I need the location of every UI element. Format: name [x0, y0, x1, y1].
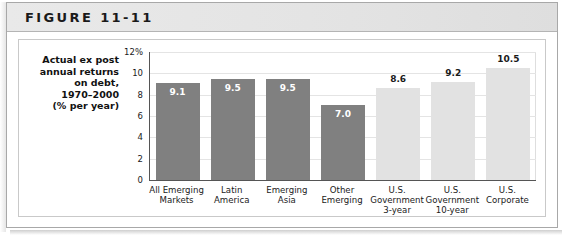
y-tick-10: 10 — [132, 68, 143, 78]
y-axis-tick-labels: 024681012% — [120, 52, 146, 180]
category-label-5: U.S.Government10-year — [421, 185, 484, 216]
bar-value-label-1: 9.5 — [211, 83, 255, 93]
bar-value-label-3: 7.0 — [321, 109, 365, 119]
gridline-12 — [150, 52, 536, 53]
bar-6: 10.5 — [486, 68, 530, 180]
category-label-line: U.S. — [476, 185, 539, 195]
category-label-1: LatinAmerica — [200, 185, 263, 205]
bar-value-label-6: 10.5 — [486, 54, 530, 64]
category-label-line: U.S. — [366, 185, 429, 195]
bar-value-label-4: 8.6 — [376, 74, 420, 84]
bar-3: 7.0 — [321, 105, 365, 180]
figure-header-band: FIGURE 11-11 — [7, 3, 557, 32]
y-tick-6: 6 — [138, 111, 143, 121]
category-label-line: Markets — [145, 195, 208, 205]
bar-value-label-0: 9.1 — [156, 87, 200, 97]
chart-caption: Actual ex post annual returns on debt, 1… — [27, 54, 119, 112]
category-label-line: Other — [310, 185, 373, 195]
y-tick-4: 4 — [138, 132, 143, 142]
category-label-3: OtherEmerging — [310, 185, 373, 205]
y-tick-8: 8 — [138, 90, 143, 100]
bar-value-label-5: 9.2 — [431, 68, 475, 78]
bar-5: 9.2 — [431, 82, 475, 180]
category-label-6: U.S.Corporate — [476, 185, 539, 205]
y-tick-0: 0 — [138, 175, 143, 185]
caption-line-3: on debt, — [27, 77, 119, 89]
gridline-10 — [150, 73, 536, 74]
page-edge-shadow-bottom — [10, 230, 562, 235]
category-label-line: U.S. — [421, 185, 484, 195]
category-label-2: EmergingAsia — [255, 185, 318, 205]
gridline-8 — [150, 95, 536, 96]
category-label-line: Government — [421, 195, 484, 205]
plot-area: 9.19.59.57.08.69.210.5 — [149, 52, 536, 181]
bar-1: 9.5 — [211, 79, 255, 180]
chart-panel: Actual ex post annual returns on debt, 1… — [18, 39, 546, 217]
caption-line-5: (% per year) — [27, 100, 119, 112]
category-label-line: Emerging — [310, 195, 373, 205]
y-tick-12: 12% — [124, 47, 143, 57]
plot-wrapper: 024681012% 9.19.59.57.08.69.210.5 All Em… — [120, 52, 535, 212]
caption-line-1: Actual ex post — [27, 54, 119, 66]
caption-line-2: annual returns — [27, 66, 119, 78]
category-label-line: Asia — [255, 195, 318, 205]
bar-0: 9.1 — [156, 83, 200, 180]
category-label-line: All Emerging — [145, 185, 208, 195]
bar-2: 9.5 — [266, 79, 310, 180]
category-label-4: U.S.Government3-year — [366, 185, 429, 216]
category-label-line: America — [200, 195, 263, 205]
category-label-line: Latin — [200, 185, 263, 195]
category-label-line: 10-year — [421, 205, 484, 215]
bar-4: 8.6 — [376, 88, 420, 180]
category-label-line: Corporate — [476, 195, 539, 205]
y-tick-2: 2 — [138, 154, 143, 164]
figure-frame: FIGURE 11-11 Actual ex post annual retur… — [6, 2, 558, 228]
category-label-line: Government — [366, 195, 429, 205]
figure-number-label: FIGURE 11-11 — [25, 10, 154, 25]
category-label-line: Emerging — [255, 185, 318, 195]
category-label-line: 3-year — [366, 205, 429, 215]
bar-value-label-2: 9.5 — [266, 83, 310, 93]
caption-line-4: 1970–2000 — [27, 89, 119, 101]
category-label-0: All EmergingMarkets — [145, 185, 208, 205]
